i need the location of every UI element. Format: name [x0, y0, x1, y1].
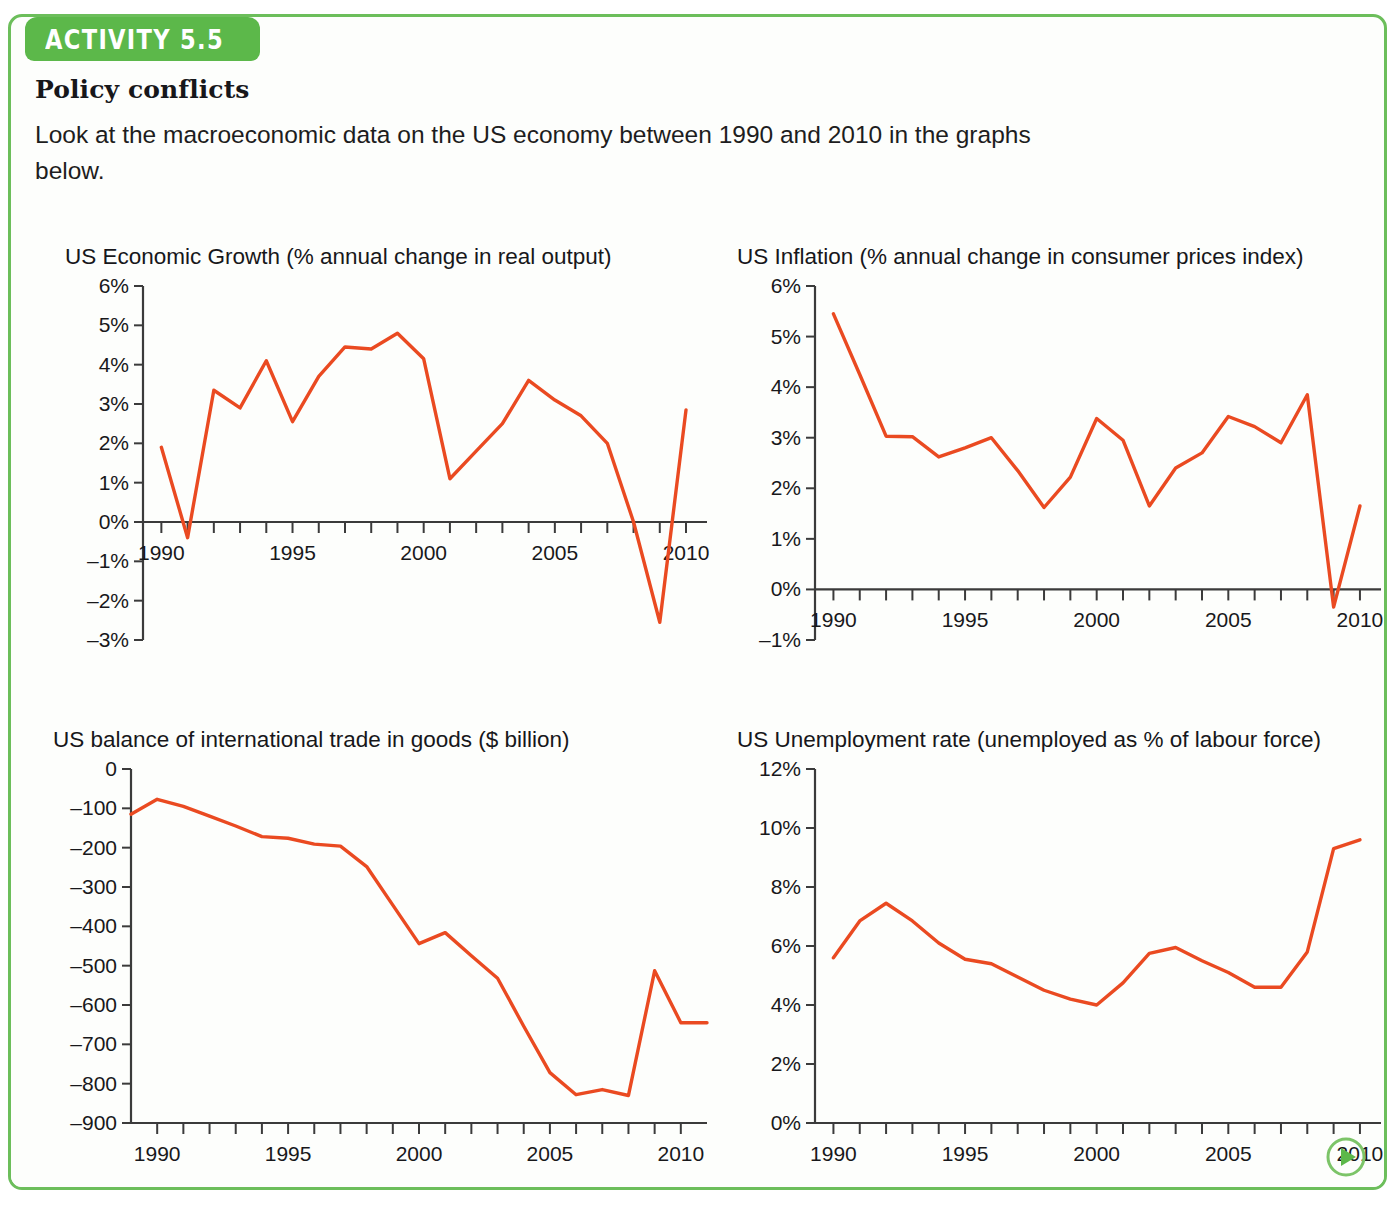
svg-text:–1%: –1% [759, 628, 801, 651]
chart-canvas-inflation: 6%5%4%3%2%1%0%–1%19901995200020052010 [723, 272, 1395, 712]
svg-text:1%: 1% [99, 471, 129, 494]
svg-text:1995: 1995 [269, 541, 316, 564]
chart-us-unemployment: US Unemployment rate (unemployed as % of… [723, 727, 1395, 1197]
svg-text:1990: 1990 [134, 1142, 181, 1165]
next-page-button[interactable] [1324, 1135, 1368, 1179]
svg-text:0: 0 [105, 757, 117, 780]
svg-text:–3%: –3% [87, 628, 129, 651]
svg-text:1995: 1995 [942, 608, 989, 631]
chart-title-trade: US balance of international trade in goo… [39, 727, 721, 753]
svg-text:6%: 6% [771, 934, 801, 957]
svg-text:–400: –400 [70, 914, 117, 937]
svg-text:2005: 2005 [1205, 608, 1252, 631]
svg-text:1%: 1% [771, 527, 801, 550]
svg-text:1990: 1990 [810, 1142, 857, 1165]
svg-text:–200: –200 [70, 836, 117, 859]
chart-us-trade-balance: US balance of international trade in goo… [39, 727, 721, 1197]
svg-text:–500: –500 [70, 954, 117, 977]
svg-text:0%: 0% [771, 577, 801, 600]
chart-us-inflation: US Inflation (% annual change in consume… [723, 244, 1395, 714]
svg-text:2010: 2010 [1337, 608, 1384, 631]
svg-text:–800: –800 [70, 1072, 117, 1095]
svg-text:–600: –600 [70, 993, 117, 1016]
svg-text:2010: 2010 [657, 1142, 704, 1165]
chart-title-growth: US Economic Growth (% annual change in r… [51, 244, 721, 270]
activity-card-body: Policy conflicts Look at the macroeconom… [11, 59, 1384, 1187]
svg-text:–300: –300 [70, 875, 117, 898]
svg-text:1990: 1990 [810, 608, 857, 631]
page-title: Policy conflicts [35, 75, 250, 104]
svg-text:2%: 2% [99, 431, 129, 454]
svg-text:8%: 8% [771, 875, 801, 898]
svg-text:2000: 2000 [1073, 608, 1120, 631]
svg-text:2%: 2% [771, 476, 801, 499]
activity-number-tab: ACTIVITY 5.5 [25, 17, 260, 61]
svg-text:0%: 0% [771, 1111, 801, 1134]
svg-text:4%: 4% [771, 375, 801, 398]
chart-title-inflation: US Inflation (% annual change in consume… [723, 244, 1395, 270]
svg-text:–2%: –2% [87, 589, 129, 612]
chart-canvas-unemployment: 12%10%8%6%4%2%0%19901995200020052010 [723, 755, 1395, 1195]
svg-text:1995: 1995 [942, 1142, 989, 1165]
svg-text:2005: 2005 [531, 541, 578, 564]
svg-text:2%: 2% [771, 1052, 801, 1075]
svg-text:10%: 10% [759, 816, 801, 839]
svg-text:12%: 12% [759, 757, 801, 780]
svg-text:5%: 5% [99, 313, 129, 336]
svg-text:0%: 0% [99, 510, 129, 533]
svg-text:2000: 2000 [1073, 1142, 1120, 1165]
chart-title-unemployment: US Unemployment rate (unemployed as % of… [723, 727, 1395, 753]
svg-text:5%: 5% [771, 325, 801, 348]
chart-canvas-growth: 6%5%4%3%2%1%0%–1%–2%–3%19901995200020052… [51, 272, 721, 712]
svg-text:6%: 6% [99, 274, 129, 297]
activity-card: ACTIVITY 5.5 Policy conflicts Look at th… [8, 14, 1387, 1190]
svg-text:2000: 2000 [396, 1142, 443, 1165]
svg-text:–1%: –1% [87, 549, 129, 572]
activity-intro-text: Look at the macroeconomic data on the US… [35, 117, 1035, 189]
svg-text:4%: 4% [771, 993, 801, 1016]
svg-text:3%: 3% [99, 392, 129, 415]
play-triangle-icon [1324, 1135, 1368, 1179]
chart-us-economic-growth: US Economic Growth (% annual change in r… [51, 244, 721, 714]
svg-text:2005: 2005 [527, 1142, 574, 1165]
chart-canvas-trade: 0–100–200–300–400–500–600–700–800–900199… [39, 755, 721, 1195]
activity-tab-label: ACTIVITY 5.5 [45, 24, 224, 55]
svg-text:–700: –700 [70, 1032, 117, 1055]
svg-text:3%: 3% [771, 426, 801, 449]
svg-text:2000: 2000 [400, 541, 447, 564]
svg-text:1990: 1990 [138, 541, 185, 564]
svg-text:–900: –900 [70, 1111, 117, 1134]
svg-text:2005: 2005 [1205, 1142, 1252, 1165]
svg-text:4%: 4% [99, 353, 129, 376]
svg-text:1995: 1995 [265, 1142, 312, 1165]
svg-text:–100: –100 [70, 796, 117, 819]
svg-text:6%: 6% [771, 274, 801, 297]
